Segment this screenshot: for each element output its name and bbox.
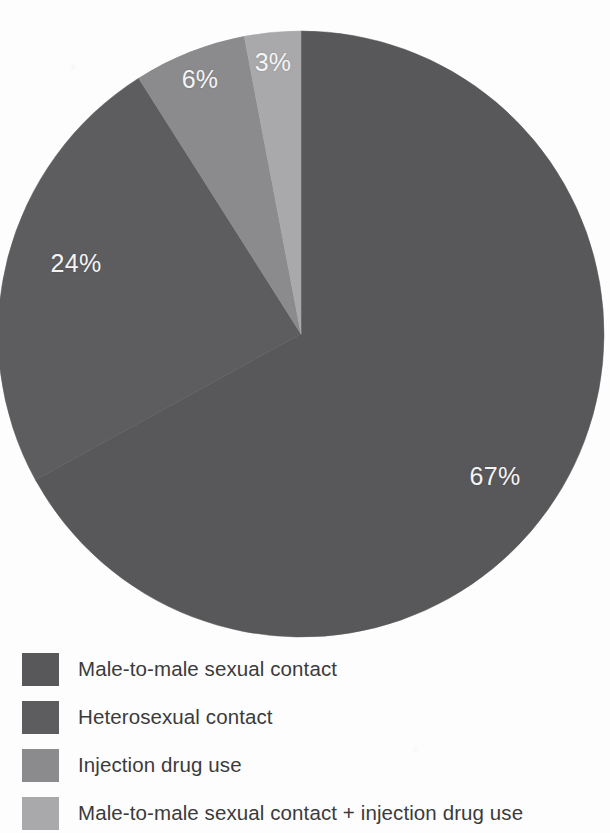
legend-item[interactable]: Male-to-male sexual contact (22, 652, 337, 686)
legend-item-label: Heterosexual contact (78, 705, 273, 729)
legend-item-label: Injection drug use (78, 753, 242, 777)
chart-page: 67%24%6%3% Male-to-male sexual contactHe… (0, 0, 610, 833)
legend-item-label: Male-to-male sexual contact (78, 657, 337, 681)
pie-slice-percent-label: 6% (182, 65, 219, 94)
pie-slice-percent-label: 67% (470, 462, 521, 491)
chart-legend: Male-to-male sexual contactHeterosexual … (0, 646, 610, 833)
legend-item-label: Male-to-male sexual contact + injection … (78, 801, 523, 825)
legend-item[interactable]: Male-to-male sexual contact + injection … (22, 796, 523, 830)
legend-color-swatch (22, 653, 59, 686)
pie-chart-svg (0, 0, 610, 646)
legend-color-swatch (22, 749, 59, 782)
legend-color-swatch (22, 701, 59, 734)
legend-color-swatch (22, 797, 59, 830)
legend-item[interactable]: Heterosexual contact (22, 700, 273, 734)
pie-slice-percent-label: 24% (51, 249, 102, 278)
pie-chart: 67%24%6%3% (0, 0, 610, 646)
pie-slice-group (0, 31, 604, 637)
pie-slice-percent-label: 3% (255, 48, 292, 77)
legend-item[interactable]: Injection drug use (22, 748, 242, 782)
